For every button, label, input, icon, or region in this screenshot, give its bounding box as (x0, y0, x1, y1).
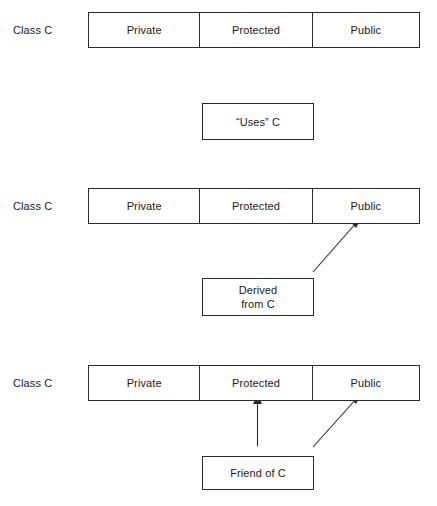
access-cell-protected-friend[interactable]: Protected (200, 366, 312, 400)
client-box-derived[interactable]: Derived from C (202, 278, 314, 316)
class-label-uses: Class C (13, 24, 52, 37)
access-row-friend: Private Protected Public (88, 365, 420, 401)
access-cell-public-derived[interactable]: Public (313, 189, 419, 223)
client-box-friend[interactable]: Friend of C (202, 456, 314, 490)
class-label-derived: Class C (13, 200, 52, 213)
client-box-uses[interactable]: “Uses” C (202, 103, 314, 140)
panel-friend: Class C Private Protected Public Friend … (0, 340, 437, 506)
access-cell-private-uses[interactable]: Private (89, 13, 200, 47)
access-row-derived: Private Protected Public (88, 188, 420, 224)
access-cell-public-uses[interactable]: Public (313, 13, 419, 47)
access-row-uses: Private Protected Public (88, 12, 420, 48)
access-cell-protected-derived[interactable]: Protected (200, 189, 312, 223)
access-control-diagram: Class C Private Protected Public “Uses” … (0, 0, 437, 506)
access-cell-private-friend[interactable]: Private (89, 366, 200, 400)
access-cell-public-friend[interactable]: Public (313, 366, 419, 400)
class-label-friend: Class C (13, 377, 52, 390)
access-cell-protected-uses[interactable]: Protected (200, 13, 312, 47)
panel-uses: Class C Private Protected Public “Uses” … (0, 0, 437, 170)
panel-derived: Class C Private Protected Public Derived… (0, 170, 437, 340)
access-cell-private-derived[interactable]: Private (89, 189, 200, 223)
